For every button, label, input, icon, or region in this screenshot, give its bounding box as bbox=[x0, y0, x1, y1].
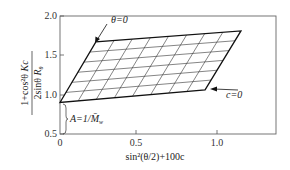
y-tick-1-5: 1.5 bbox=[45, 49, 58, 60]
grid-col-line bbox=[133, 36, 169, 96]
y-tick-2-0: 2.0 bbox=[45, 10, 58, 21]
y-axis-label: 1+cos²θ Kc 2sinθ Rθ bbox=[19, 51, 44, 115]
grid-col-line bbox=[187, 32, 223, 91]
x-axis bbox=[136, 130, 217, 134]
c-zero-arrowhead bbox=[210, 87, 217, 92]
intercept-brace bbox=[63, 104, 68, 134]
y-label-denominator: 2sinθ Rθ bbox=[32, 66, 44, 99]
theta-zero-label: θ=0 bbox=[111, 14, 128, 25]
x-tick-0-5: 0.5 bbox=[130, 137, 143, 148]
x-tick-0: 0 bbox=[58, 137, 63, 148]
zimm-plot: 2.0 1.5 1.0 0.5 0 0.5 1.0 sin²(θ/2)+100c… bbox=[0, 0, 290, 170]
y-axis bbox=[60, 16, 64, 134]
grid-col-line bbox=[78, 41, 114, 101]
x-tick-1-0: 1.0 bbox=[211, 137, 224, 148]
grid-col-line bbox=[151, 35, 187, 95]
c-zero-label: c=0 bbox=[226, 89, 242, 100]
theta-zero-arrow bbox=[97, 24, 107, 40]
grid-col-line bbox=[114, 38, 150, 98]
intercept-label: A=1/M̄w bbox=[69, 113, 103, 125]
x-axis-label: sin²(θ/2)+100c bbox=[126, 151, 186, 163]
grid-col-line bbox=[169, 34, 205, 93]
zimm-grid bbox=[66, 32, 235, 101]
y-tick-1-0: 1.0 bbox=[45, 89, 58, 100]
grid-col-line bbox=[96, 39, 132, 99]
y-label-numerator: 1+cos²θ Kc bbox=[19, 60, 30, 106]
y-tick-0-5: 0.5 bbox=[45, 128, 58, 139]
